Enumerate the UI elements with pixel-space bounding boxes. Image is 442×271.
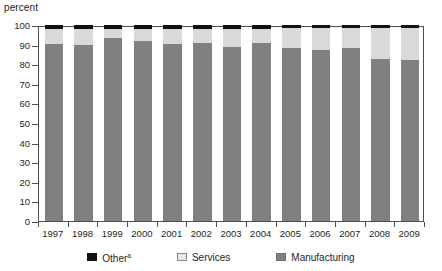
x-tick-mark bbox=[365, 222, 366, 227]
x-tick-mark bbox=[38, 222, 39, 227]
x-tick-mark bbox=[394, 222, 395, 227]
x-tick-label: 2006 bbox=[305, 228, 335, 239]
x-tick-label: 2004 bbox=[246, 228, 276, 239]
x-tick-mark bbox=[335, 222, 336, 227]
x-tick-mark bbox=[424, 222, 425, 227]
legend-item-other[interactable]: Othera bbox=[87, 250, 131, 264]
x-tick-mark bbox=[276, 222, 277, 227]
x-tick-label: 1997 bbox=[38, 228, 68, 239]
legend-label: Services bbox=[192, 252, 230, 263]
x-tick-mark bbox=[246, 222, 247, 227]
x-tick-mark bbox=[305, 222, 306, 227]
x-tick-label: 1999 bbox=[97, 228, 127, 239]
x-tick-mark bbox=[157, 222, 158, 227]
x-tick-mark bbox=[216, 222, 217, 227]
x-tick-label: 2001 bbox=[157, 228, 187, 239]
chart-legend: OtheraServicesManufacturing bbox=[0, 250, 442, 264]
legend-swatch-icon bbox=[276, 253, 286, 261]
x-tick-label: 2005 bbox=[276, 228, 306, 239]
stacked-bar-chart: percent 0102030405060708090100 199719981… bbox=[0, 0, 442, 271]
x-tick-label: 2003 bbox=[216, 228, 246, 239]
x-tick-label: 2002 bbox=[186, 228, 216, 239]
x-tick-label: 1998 bbox=[68, 228, 98, 239]
x-tick-mark bbox=[97, 222, 98, 227]
x-tick-label: 2008 bbox=[365, 228, 395, 239]
legend-item-manufacturing[interactable]: Manufacturing bbox=[276, 252, 354, 263]
x-tick-mark bbox=[68, 222, 69, 227]
legend-item-services[interactable]: Services bbox=[177, 252, 230, 263]
x-tick-label: 2007 bbox=[335, 228, 365, 239]
x-tick-mark bbox=[186, 222, 187, 227]
x-tick-label: 2009 bbox=[394, 228, 424, 239]
x-axis: 1997199819992000200120022003200420052006… bbox=[0, 0, 442, 271]
legend-swatch-icon bbox=[87, 253, 97, 261]
x-tick-mark bbox=[127, 222, 128, 227]
legend-footnote-marker: a bbox=[127, 252, 131, 259]
legend-swatch-icon bbox=[177, 253, 187, 261]
x-tick-label: 2000 bbox=[127, 228, 157, 239]
legend-label: Manufacturing bbox=[291, 252, 354, 263]
legend-label: Othera bbox=[102, 250, 131, 264]
